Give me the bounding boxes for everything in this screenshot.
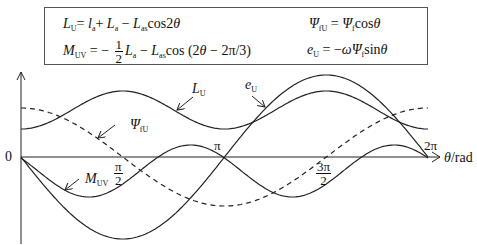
label-L-U: LU [192,82,206,98]
waveform-plot [0,0,477,245]
x-axis-label: θ/rad [444,151,473,165]
L-U-leader-arrow-icon [177,97,193,110]
e-U-leader-arrow-icon [252,96,265,107]
tick-pi-over-2: π2 [114,160,123,187]
curve-L-U [21,91,428,129]
tick-pi: π [214,139,221,152]
M-UV-leader-arrow-icon [65,179,79,190]
psi-leader-arrow-icon [98,125,115,138]
label-psi-fU: ΨfU [130,118,148,134]
origin-label: 0 [5,150,12,164]
tick-3pi-over-2: 3π2 [316,160,331,187]
label-M-UV: MUV [85,172,108,188]
curve-M-UV [21,145,428,197]
label-e-U: eU [245,78,257,94]
tick-2pi: 2π [424,139,437,152]
